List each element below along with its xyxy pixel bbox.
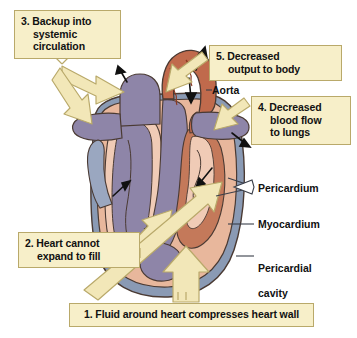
- callout-1-line-1: 1. Fluid around heart compresses heart w…: [74, 308, 309, 321]
- label-pericardial-cavity-line-1: Pericardial: [258, 262, 312, 274]
- callout-4-line-2: blood flow: [258, 114, 344, 127]
- label-pericardial-cavity-line-2: cavity: [258, 287, 288, 299]
- label-pericardium: Pericardium: [258, 182, 319, 194]
- callout-5-decreased-output[interactable]: 5. Decreased output to body: [209, 45, 342, 81]
- label-myocardium: Myocardium: [258, 218, 320, 230]
- callout-3-line-1: 3. Backup into: [21, 15, 114, 28]
- label-pericardial-cavity: Pericardial cavity: [258, 250, 312, 300]
- callout-3-line-2: systemic: [21, 28, 114, 41]
- callout-1-fluid-compresses[interactable]: 1. Fluid around heart compresses heart w…: [69, 303, 314, 327]
- callout-4-decreased-blood-flow[interactable]: 4. Decreased blood flow to lungs: [251, 96, 351, 145]
- flow-arrow-sup-vena-head: [116, 66, 125, 74]
- callout-4-line-1: 4. Decreased: [258, 101, 344, 114]
- callout-3-line-3: circulation: [21, 40, 114, 53]
- callout-3-backup-systemic[interactable]: 3. Backup into systemic circulation: [14, 10, 121, 59]
- callout-5-line-1: 5. Decreased: [216, 50, 335, 63]
- callout-2-line-2: expand to fill: [25, 250, 133, 263]
- callout-2-line-1: 2. Heart cannot: [25, 237, 133, 250]
- figure-canvas: 3. Backup into systemic circulation 5. D…: [0, 0, 357, 338]
- callout-4-line-3: to lungs: [258, 126, 344, 139]
- callout-2-heart-cannot-expand[interactable]: 2. Heart cannot expand to fill: [18, 232, 140, 268]
- callout-5-line-2: output to body: [216, 63, 335, 76]
- label-aorta: Aorta: [212, 84, 239, 96]
- stem-callout3: [56, 58, 68, 64]
